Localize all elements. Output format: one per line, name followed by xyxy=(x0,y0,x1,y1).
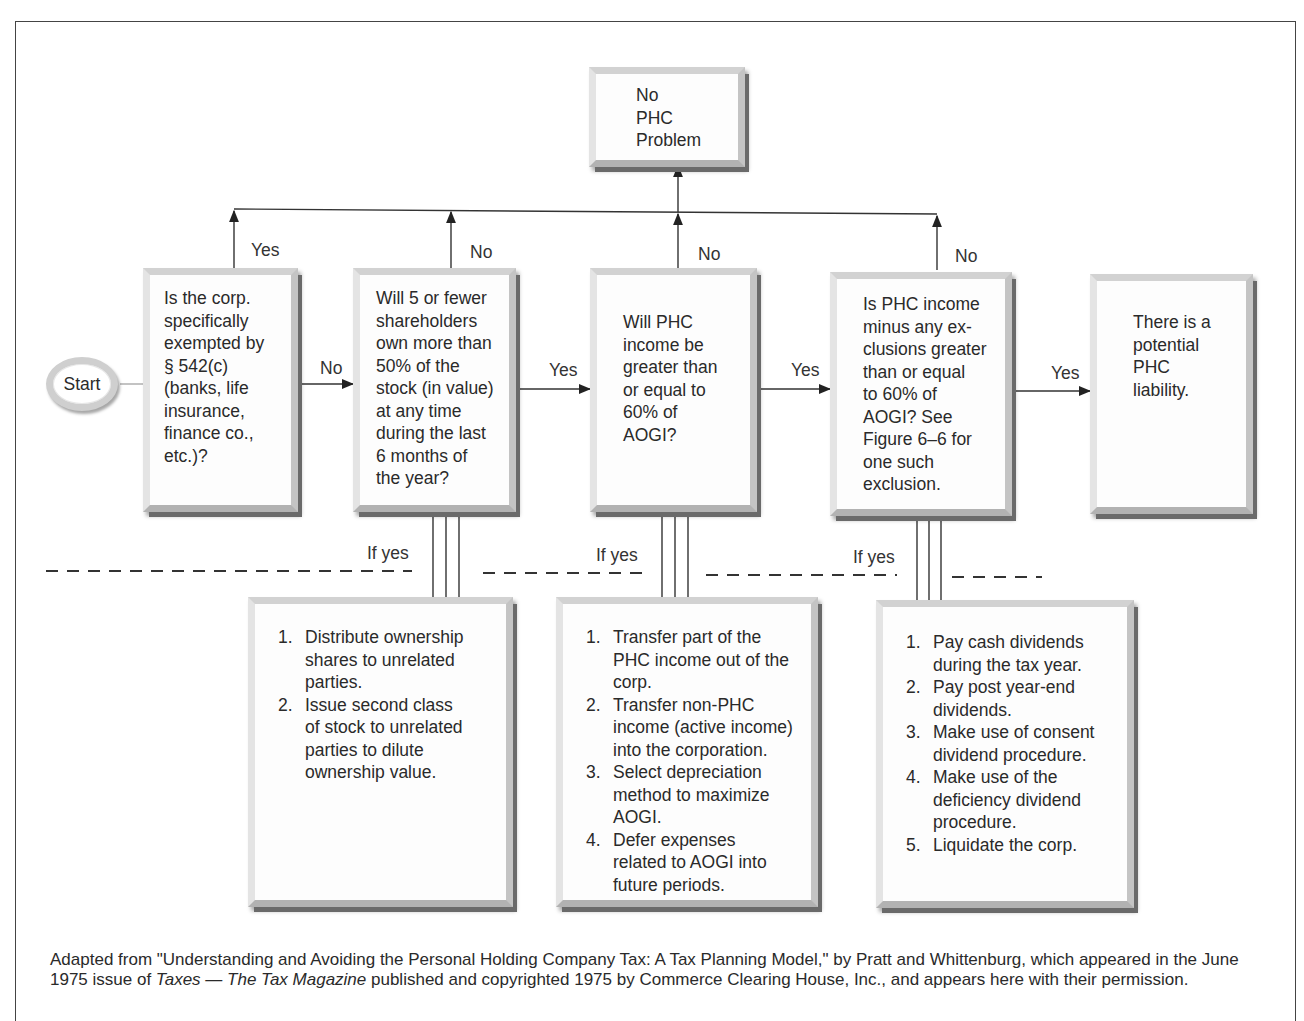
decision-text-phc-income: Will PHC income be greater than or equal… xyxy=(623,311,717,446)
phc-liability-box: There is a potential PHC liability. xyxy=(1090,274,1253,514)
remedy-item: Transfer non-PHC income (active income) … xyxy=(613,694,793,762)
label-if-yes-3: If yes xyxy=(853,547,895,567)
remedy-list-phc-income: Transfer part of the PHC income out of t… xyxy=(583,626,793,896)
phc-liability-text: There is a potential PHC liability. xyxy=(1133,311,1211,401)
decision-text-exclusions: Is PHC income minus any ex- clusions gre… xyxy=(863,293,987,496)
decision-box-shareholders: Will 5 or fewer shareholders own more th… xyxy=(353,268,516,512)
remedy-box-shareholders: Distribute ownership shares to unrelated… xyxy=(248,597,513,907)
remedy-item: Pay post year-end dividends. xyxy=(933,676,1094,721)
caption-text-after: published and copyrighted 1975 by Commer… xyxy=(366,970,1188,989)
start-node: Start xyxy=(46,357,118,411)
no-phc-problem-text: No PHC Problem xyxy=(636,84,701,152)
decision-box-exclusions: Is PHC income minus any ex- clusions gre… xyxy=(830,272,1012,516)
remedy-item: Make use of consent dividend procedure. xyxy=(933,721,1094,766)
source-caption: Adapted from "Understanding and Avoiding… xyxy=(50,950,1280,990)
label-yes-phc-right: Yes xyxy=(791,360,820,380)
remedy-item: Make use of the deficiency dividend proc… xyxy=(933,766,1094,834)
decision-text-shareholders: Will 5 or fewer shareholders own more th… xyxy=(376,287,494,490)
remedy-item: Issue second class of stock to unrelated… xyxy=(305,694,464,784)
remedy-box-exclusions: Pay cash dividends during the tax year. … xyxy=(876,600,1134,908)
remedy-item: Pay cash dividends during the tax year. xyxy=(933,631,1094,676)
label-yes-exempt-up: Yes xyxy=(251,240,280,260)
label-no-exclusions-up: No xyxy=(955,246,977,266)
remedy-list-exclusions: Pay cash dividends during the tax year. … xyxy=(903,631,1094,856)
remedy-item: Select depreciation method to maximize A… xyxy=(613,761,793,829)
remedy-box-phc-income: Transfer part of the PHC income out of t… xyxy=(556,597,818,907)
label-yes-shareholders-right: Yes xyxy=(549,360,578,380)
label-no-phc-up: No xyxy=(698,244,720,264)
caption-magazine-title: Taxes — The Tax Magazine xyxy=(156,970,366,989)
remedy-item: Defer expenses related to AOGI into futu… xyxy=(613,829,793,897)
label-if-yes-1: If yes xyxy=(367,543,409,563)
decision-box-phc-income: Will PHC income be greater than or equal… xyxy=(590,268,757,512)
remedy-item: Transfer part of the PHC income out of t… xyxy=(613,626,793,694)
label-if-yes-2: If yes xyxy=(596,545,638,565)
start-label: Start xyxy=(64,374,101,395)
label-no-shareholders-up: No xyxy=(470,242,492,262)
remedy-item: Distribute ownership shares to unrelated… xyxy=(305,626,464,694)
remedy-item: Liquidate the corp. xyxy=(933,834,1094,857)
label-yes-exclusions-right: Yes xyxy=(1051,363,1080,383)
decision-text-exemption: Is the corp. specifically exempted by § … xyxy=(164,287,264,467)
no-phc-problem-box: No PHC Problem xyxy=(589,67,745,167)
remedy-list-shareholders: Distribute ownership shares to unrelated… xyxy=(275,626,464,784)
decision-box-exemption: Is the corp. specifically exempted by § … xyxy=(143,268,298,512)
label-no-exempt-right: No xyxy=(320,358,342,378)
